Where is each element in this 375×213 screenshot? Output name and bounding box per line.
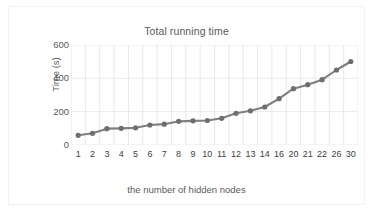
data-point-marker: [233, 111, 238, 116]
x-axis-tick-label: 5: [133, 150, 138, 159]
x-axis-tick-label: 9: [190, 150, 195, 159]
y-axis-tick-label: 600: [53, 40, 69, 50]
y-axis-tick-labels: 0200400600: [43, 45, 69, 145]
x-axis-tick-label: 21: [303, 150, 313, 159]
x-axis-tick-label: 22: [317, 150, 327, 159]
x-axis-tick-label: 8: [176, 150, 181, 159]
data-point-marker: [276, 96, 281, 101]
data-point-marker: [190, 118, 195, 123]
x-axis-tick-label: 30: [346, 150, 356, 159]
data-point-marker: [176, 119, 181, 124]
data-point-marker: [262, 104, 267, 109]
x-axis-tick-label: 6: [147, 150, 152, 159]
chart-title: Total running time: [9, 25, 364, 37]
line-chart-svg: [71, 45, 358, 145]
x-axis-tick-label: 10: [202, 150, 212, 159]
plot-area: [71, 45, 358, 145]
x-axis-tick-label: 4: [119, 150, 124, 159]
data-point-marker: [133, 125, 138, 130]
chart-card: Total running time Time (s) 0200400600 1…: [8, 6, 365, 205]
x-axis-tick-label: 12: [231, 150, 241, 159]
x-axis-tick-label: 11: [217, 150, 226, 159]
y-axis-tick-label: 200: [53, 107, 69, 117]
data-point-marker: [205, 118, 210, 123]
x-axis-tick-label: 7: [162, 150, 167, 159]
data-point-marker: [320, 77, 325, 82]
data-point-marker: [291, 86, 296, 91]
data-point-marker: [147, 122, 152, 127]
x-axis-label: the number of hidden nodes: [9, 184, 364, 195]
data-point-marker: [219, 116, 224, 121]
data-point-marker: [104, 126, 109, 131]
x-axis-tick-label: 2: [90, 150, 95, 159]
data-point-marker: [248, 108, 253, 113]
y-axis-tick-label: 0: [64, 140, 69, 150]
data-point-marker: [348, 59, 353, 64]
x-axis-tick-label: 16: [274, 150, 284, 159]
data-point-marker: [305, 82, 310, 87]
x-axis-tick-labels: 1234567891011121314162021222630: [71, 150, 358, 164]
data-point-marker: [76, 133, 81, 138]
data-point-marker: [162, 122, 167, 127]
x-axis-tick-label: 20: [288, 150, 298, 159]
data-point-marker: [90, 131, 95, 136]
y-axis-tick-label: 400: [53, 74, 69, 84]
x-axis-tick-label: 3: [104, 150, 109, 159]
data-point-marker: [334, 67, 339, 72]
data-point-marker: [119, 126, 124, 131]
x-axis-tick-label: 26: [331, 150, 341, 159]
x-axis-tick-label: 14: [260, 150, 270, 159]
x-axis-tick-label: 1: [76, 150, 81, 159]
x-axis-tick-label: 13: [245, 150, 255, 159]
